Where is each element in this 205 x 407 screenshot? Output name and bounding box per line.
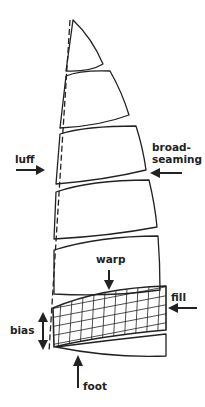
sail-panel-4 [54, 180, 157, 239]
warp-arrow-icon [104, 270, 114, 290]
sail-panel-3 [56, 126, 146, 184]
foot-arrow-icon [73, 355, 83, 388]
label-warp: warp [96, 253, 126, 265]
bias-double-arrow-icon [38, 312, 48, 350]
label-bias: bias [10, 324, 34, 336]
label-foot: foot [83, 380, 107, 392]
label-fill: fill [171, 291, 186, 303]
sail-panel-1 [66, 20, 103, 71]
sail-diagram: luff broad- seaming warp fill bias foot [0, 0, 205, 407]
sail-panel-2 [60, 71, 129, 128]
luff-arrow-icon [16, 165, 45, 175]
label-broadseaming-2: seaming [152, 153, 202, 165]
broadseaming-arrow-icon [150, 168, 182, 178]
label-luff: luff [15, 153, 35, 165]
label-broadseaming-1: broad- [152, 141, 191, 153]
sail-panel-5 [54, 236, 160, 295]
sail-panel-foot [56, 334, 166, 356]
fill-arrow-icon [168, 303, 197, 313]
